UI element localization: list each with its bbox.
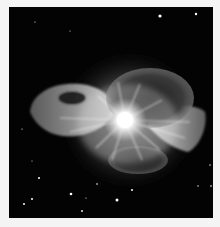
nebula-photo (9, 7, 213, 218)
nebula-illustration (9, 7, 213, 218)
